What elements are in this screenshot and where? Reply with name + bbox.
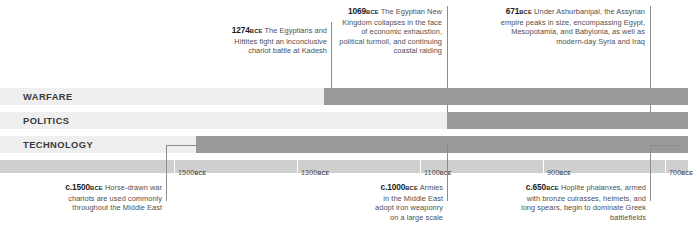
bce-suffix: BCE — [405, 185, 418, 191]
annotation-chariots-year: c.1500BCE — [65, 182, 103, 192]
annotation-chariots-text: c.1500BCE Horse-drawn war chariots are u… — [50, 183, 162, 213]
axis-tick-divider — [543, 160, 544, 173]
annotation-iron-year: c.1000BCE — [380, 182, 418, 192]
bar-warfare — [324, 88, 688, 105]
bce-suffix: BCE — [317, 170, 329, 176]
bce-suffix: BCE — [440, 170, 452, 176]
axis-tick-divider — [174, 160, 175, 173]
annotation-new-kingdom-text: 1069BCE The Egyptian New Kingdom collaps… — [338, 7, 442, 56]
axis-tick-label-1500: 1500BCE — [178, 168, 206, 177]
timeline-axis — [0, 160, 688, 173]
bce-suffix: BCE — [250, 28, 263, 34]
axis-tick-divider — [420, 160, 421, 173]
axis-tick-label-1300: 1300BCE — [301, 168, 329, 177]
bce-suffix: BCE — [559, 170, 571, 176]
bce-suffix: BCE — [681, 170, 693, 176]
row-label-warfare: WARFARE — [23, 92, 73, 102]
leader-line-kadesh — [331, 22, 332, 88]
row-politics: POLITICS — [0, 112, 688, 129]
leader-line-chariots-arm — [166, 145, 197, 146]
leader-line-chariots — [166, 145, 167, 201]
annotation-iron-text: c.1000BCE Armies in the Middle East adop… — [375, 183, 443, 222]
annotation-assyria: 671BCE Under Ashurbanipal, the Assyrian … — [498, 7, 645, 46]
annotation-chariots: c.1500BCE Horse-drawn war chariots are u… — [50, 183, 162, 213]
axis-tick-divider — [665, 160, 666, 173]
annotation-new-kingdom-year: 1069BCE — [348, 6, 379, 16]
row-technology: TECHNOLOGY — [0, 136, 688, 153]
leader-line-iron — [447, 143, 448, 201]
annotation-kadesh-text: 1274BCE The Egyptians and Hittites fight… — [212, 26, 327, 56]
annotation-hoplite-year: c.650BCE — [526, 182, 559, 192]
annotation-iron: c.1000BCE Armies in the Middle East adop… — [375, 183, 443, 222]
row-warfare: WARFARE — [0, 88, 688, 105]
row-label-technology: TECHNOLOGY — [23, 140, 93, 150]
axis-tick-divider — [297, 160, 298, 173]
axis-tick-label-900: 900BCE — [547, 168, 571, 177]
bar-technology — [196, 136, 688, 153]
axis-tick-label-700: 700BCE — [669, 168, 693, 177]
annotation-assyria-year: 671BCE — [506, 6, 532, 16]
bce-suffix: BCE — [90, 185, 103, 191]
annotation-new-kingdom: 1069BCE The Egyptian New Kingdom collaps… — [338, 7, 442, 56]
bce-suffix: BCE — [546, 185, 559, 191]
row-label-politics: POLITICS — [23, 116, 69, 126]
leader-line-hoplite-arm — [650, 145, 681, 146]
annotation-hoplite-text: c.650BCE Hoplite phalanxes, armed with b… — [513, 183, 646, 222]
annotation-assyria-text: 671BCE Under Ashurbanipal, the Assyrian … — [498, 7, 645, 46]
bce-suffix: BCE — [366, 9, 379, 15]
bce-suffix: BCE — [194, 170, 206, 176]
bar-politics — [447, 112, 688, 129]
leader-line-hoplite — [650, 145, 651, 201]
annotation-kadesh: 1274BCE The Egyptians and Hittites fight… — [212, 26, 327, 56]
annotation-kadesh-year: 1274BCE — [232, 25, 263, 35]
bce-suffix: BCE — [519, 9, 532, 15]
annotation-hoplite: c.650BCE Hoplite phalanxes, armed with b… — [513, 183, 646, 222]
